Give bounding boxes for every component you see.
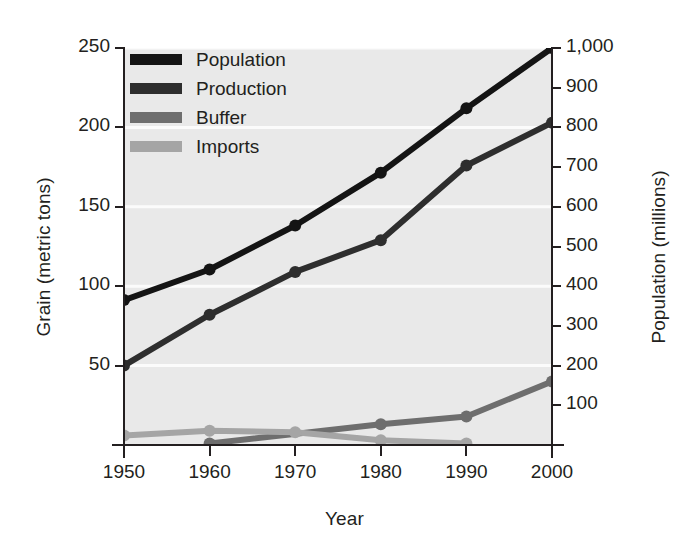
- x-axis-tick-label: 1980: [341, 461, 421, 483]
- data-point-marker: [289, 219, 301, 231]
- x-axis-tick-label: 1990: [426, 461, 506, 483]
- y-axis-right-tick-label: 700: [566, 154, 636, 176]
- legend-swatch-icon: [130, 83, 182, 94]
- y-axis-right-tick-label: 300: [566, 313, 636, 335]
- legend-swatch-icon: [130, 141, 182, 152]
- y-axis-right-tick-mark: [552, 404, 561, 406]
- x-axis-tick-mark: [209, 445, 211, 456]
- y-axis-right-tick-label: 600: [566, 194, 636, 216]
- data-point-marker: [460, 102, 472, 114]
- y-axis-right-tick-label: 100: [566, 392, 636, 414]
- y-axis-right-tick-mark: [552, 246, 561, 248]
- y-axis-right-tick-label: 200: [566, 353, 636, 375]
- y-axis-right-tick-label: 1,000: [566, 35, 636, 57]
- data-point-marker: [375, 234, 387, 246]
- y-axis-left-spine: [123, 47, 125, 458]
- y-axis-left-tick-label: 150: [50, 194, 110, 216]
- y-axis-right-tick-label: 900: [566, 75, 636, 97]
- y-axis-left-tick-label: 50: [50, 353, 110, 375]
- x-axis-tick-mark: [380, 445, 382, 456]
- legend-swatch-icon: [130, 112, 182, 123]
- y-axis-right-tick-label: 500: [566, 234, 636, 256]
- series-imports: [124, 425, 472, 445]
- series-buffer: [204, 375, 552, 445]
- x-axis-tick-label: 1970: [255, 461, 335, 483]
- y-axis-right-spine: [551, 47, 553, 458]
- y-axis-right-tick-mark: [552, 47, 561, 49]
- data-point-marker: [289, 266, 301, 278]
- legend-item-population[interactable]: Population: [130, 45, 287, 74]
- chart-figure: Grain (metric tons) Population (millions…: [0, 0, 689, 550]
- legend-label: Production: [196, 78, 287, 100]
- x-axis-title: Year: [0, 508, 689, 530]
- data-point-marker: [375, 418, 387, 430]
- x-axis-tick-label: 2000: [512, 461, 592, 483]
- data-point-marker: [460, 160, 472, 172]
- y-axis-right-tick-mark: [552, 126, 561, 128]
- y-axis-right-tick-label: 800: [566, 114, 636, 136]
- chart-legend: PopulationProductionBufferImports: [130, 45, 287, 161]
- legend-label: Population: [196, 49, 286, 71]
- data-point-marker: [204, 425, 216, 437]
- x-axis-tick-label: 1950: [84, 461, 164, 483]
- y-axis-right-tick-mark: [552, 325, 561, 327]
- y-axis-right-tick-mark: [552, 87, 561, 89]
- x-axis-tick-label: 1960: [170, 461, 250, 483]
- legend-item-imports[interactable]: Imports: [130, 132, 287, 161]
- x-axis-tick-mark: [294, 445, 296, 456]
- data-point-marker: [375, 167, 387, 179]
- y-axis-right-tick-mark: [552, 166, 561, 168]
- data-point-marker: [460, 410, 472, 422]
- x-axis-spine: [112, 444, 564, 446]
- y-axis-right-tick-label: 400: [566, 273, 636, 295]
- y-axis-left-tick-label: 100: [50, 273, 110, 295]
- legend-item-buffer[interactable]: Buffer: [130, 103, 287, 132]
- y-axis-right-tick-mark: [552, 206, 561, 208]
- legend-label: Buffer: [196, 107, 246, 129]
- y-axis-left-title: Grain (metric tons): [33, 127, 55, 387]
- y-axis-right-tick-mark: [552, 285, 561, 287]
- legend-swatch-icon: [130, 54, 182, 65]
- legend-label: Imports: [196, 136, 259, 158]
- y-axis-left-tick-label: 250: [50, 35, 110, 57]
- y-axis-right-title: Population (millions): [648, 127, 670, 387]
- y-axis-right-tick-mark: [552, 365, 561, 367]
- x-axis-tick-mark: [465, 445, 467, 456]
- y-axis-left-tick-label: 200: [50, 114, 110, 136]
- data-point-marker: [204, 264, 216, 276]
- data-point-marker: [289, 426, 301, 438]
- data-point-marker: [204, 309, 216, 321]
- legend-item-production[interactable]: Production: [130, 74, 287, 103]
